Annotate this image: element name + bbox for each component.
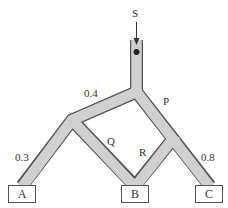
outlet-label-c: C <box>205 187 213 202</box>
outlet-box-b: B <box>121 185 149 203</box>
outlet-label-a: A <box>18 187 27 202</box>
edge-label-upper-left: 0.4 <box>84 88 98 99</box>
edge-label-p: P <box>163 96 169 107</box>
edge-label-lower-left: 0.3 <box>15 152 29 163</box>
pipe-network-diagram: S 0.4 0.3 P Q R 0.8 A B C <box>0 0 228 208</box>
edge-label-r: R <box>139 147 146 158</box>
ball-icon <box>134 49 140 55</box>
pipe-network-graphic <box>0 0 228 208</box>
outlet-box-a: A <box>8 185 36 203</box>
edge-label-q: Q <box>107 136 115 147</box>
source-label: S <box>132 8 138 19</box>
edge-label-lower-right: 0.8 <box>201 152 215 163</box>
outlet-box-c: C <box>195 185 223 203</box>
outlet-label-b: B <box>131 187 139 202</box>
